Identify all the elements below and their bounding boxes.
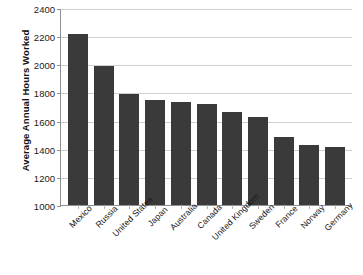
x-label-slot: Germany: [322, 206, 348, 266]
y-tick-label: 1600: [34, 116, 55, 127]
bar[interactable]: [222, 112, 242, 205]
x-label-slot: United States: [116, 206, 142, 266]
bar[interactable]: [197, 104, 217, 205]
bar[interactable]: [171, 102, 191, 205]
bar[interactable]: [94, 66, 114, 205]
bar[interactable]: [274, 137, 294, 205]
bar[interactable]: [248, 117, 268, 205]
bar-slot: [271, 9, 297, 205]
plot-area: 24002200200018001600140012001000: [60, 9, 352, 206]
x-axis-labels: MexicoRussiaUnited StatesJapanAustraliaC…: [60, 206, 352, 266]
y-tick-label: 1200: [34, 172, 55, 183]
y-tick-label: 2400: [34, 4, 55, 15]
bar-slot: [194, 9, 220, 205]
bar[interactable]: [145, 100, 165, 205]
bar[interactable]: [119, 94, 139, 205]
y-tick-label: 1400: [34, 144, 55, 155]
x-label-slot: Japan: [141, 206, 167, 266]
x-label-slot: Mexico: [64, 206, 90, 266]
bar-slot: [245, 9, 271, 205]
y-axis-title: Average Annual Hours Worked: [20, 16, 31, 186]
x-tick-label: Germany: [322, 200, 355, 233]
y-tick-label: 1000: [34, 201, 55, 212]
x-label-slot: Sweden: [245, 206, 271, 266]
bar-slot: [142, 9, 168, 205]
bar[interactable]: [68, 34, 88, 205]
bar-chart: Average Annual Hours Worked 240022002000…: [0, 0, 363, 275]
bar-slot: [168, 9, 194, 205]
bar[interactable]: [299, 145, 319, 206]
y-tick-label: 1800: [34, 88, 55, 99]
bar-slot: [219, 9, 245, 205]
bar-slot: [65, 9, 91, 205]
x-label-slot: Norway: [296, 206, 322, 266]
x-label-slot: Australia: [167, 206, 193, 266]
x-label-slot: United Kingdom: [219, 206, 245, 266]
x-label-slot: Russia: [90, 206, 116, 266]
bars-group: [61, 9, 352, 205]
bar-slot: [322, 9, 348, 205]
x-label-slot: France: [271, 206, 297, 266]
y-tick-label: 2200: [34, 32, 55, 43]
bar-slot: [91, 9, 117, 205]
y-tick-label: 2000: [34, 60, 55, 71]
bar[interactable]: [325, 147, 345, 205]
bar-slot: [297, 9, 323, 205]
bar-slot: [116, 9, 142, 205]
